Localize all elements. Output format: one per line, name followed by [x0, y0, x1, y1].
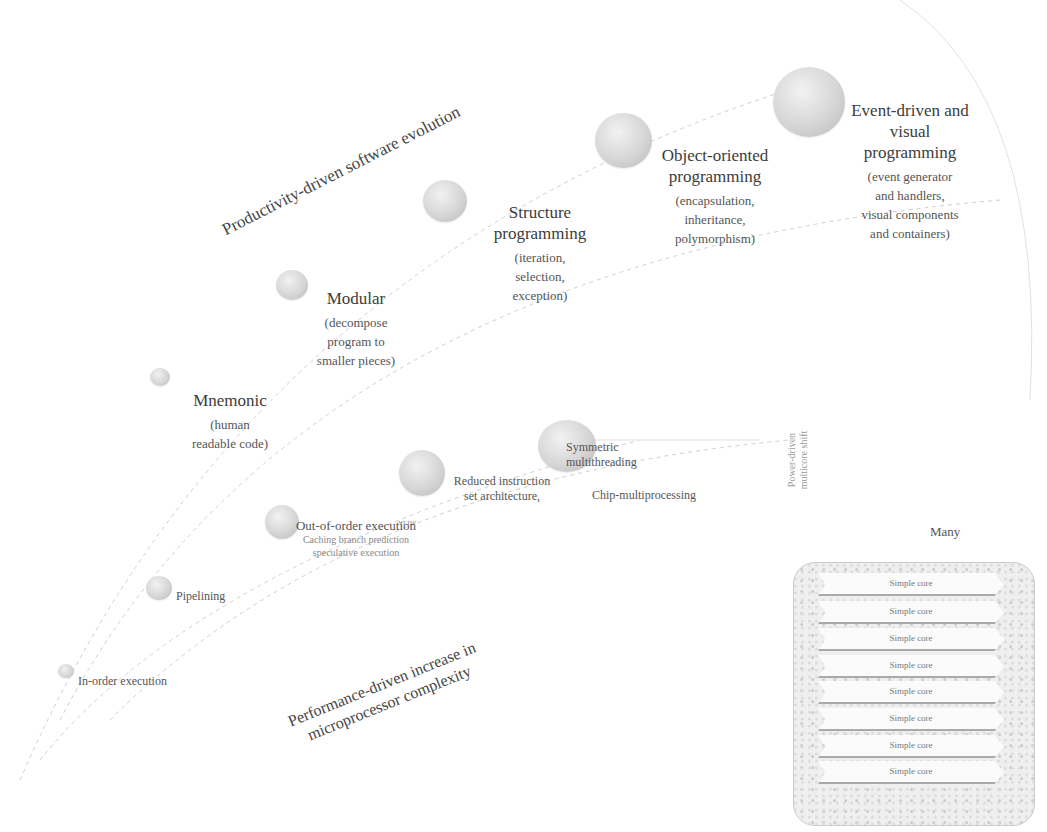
shift-line1: Power-driven	[786, 415, 798, 505]
stage-object-oriented: Object-oriented programming (encapsulati…	[640, 145, 790, 248]
stage-desc: (event generator and handlers, visual co…	[860, 167, 960, 243]
sphere-modular	[276, 270, 308, 300]
simple-core: Simple core	[818, 628, 1004, 651]
stage-desc: (encapsulation, inheritance, polymorphis…	[650, 191, 780, 248]
many-core-box: Simple core Simple core Simple core Simp…	[793, 562, 1035, 826]
multicore-shift-label: Power-driven multicore shift	[786, 415, 810, 505]
hw-risc: Reduced instruction set architecture,	[432, 474, 572, 504]
simple-core: Simple core	[818, 655, 1004, 678]
hw-in-order: In-order execution	[78, 674, 167, 689]
stage-desc: (human readable code)	[190, 415, 270, 453]
stage-desc: (iteration, selection, exception)	[500, 248, 580, 305]
sphere-structure	[423, 180, 467, 222]
stage-title: Mnemonic	[180, 390, 280, 411]
stage-title: Symmetric	[566, 440, 676, 455]
stage-sub: Caching branch prediction	[282, 533, 430, 546]
simple-core: Simple core	[818, 573, 1004, 596]
stage-modular: Modular (decompose program to smaller pi…	[308, 288, 404, 370]
stage-title: Reduced instruction	[432, 474, 572, 489]
hw-smt: Symmetric multithreading	[566, 440, 676, 470]
stage-title: Structure programming	[485, 202, 595, 244]
stage-sub: speculative execution	[282, 546, 430, 559]
simple-core: Simple core	[818, 681, 1004, 704]
hw-pipelining: Pipelining	[176, 589, 225, 604]
hw-chip-multiprocessing: Chip-multiprocessing	[592, 488, 696, 503]
simple-core: Simple core	[818, 708, 1004, 731]
shift-line2: multicore shift	[798, 415, 810, 505]
sphere-event-driven	[773, 67, 845, 137]
stage-title: Modular	[308, 288, 404, 309]
stage-title: Event-driven and visual programming	[850, 100, 970, 163]
stage-desc: (decompose program to smaller pieces)	[311, 313, 401, 370]
many-label: Many	[930, 524, 960, 540]
stage-structure: Structure programming (iteration, select…	[470, 202, 610, 305]
stage-title: Object-oriented programming	[660, 145, 770, 187]
simple-core: Simple core	[818, 735, 1004, 758]
sphere-mnemonic	[150, 368, 170, 386]
stage-event-driven: Event-driven and visual programming (eve…	[840, 100, 980, 243]
simple-core: Simple core	[818, 761, 1004, 784]
sphere-pipelining	[146, 576, 172, 600]
stage-title-2: set architecture,	[432, 489, 572, 504]
simple-core: Simple core	[818, 601, 1004, 624]
sphere-in-order	[58, 664, 74, 678]
stage-title-2: multithreading	[566, 455, 676, 470]
hw-vliw-tag: VLIW	[398, 517, 416, 530]
stage-mnemonic: Mnemonic (human readable code)	[180, 390, 280, 453]
